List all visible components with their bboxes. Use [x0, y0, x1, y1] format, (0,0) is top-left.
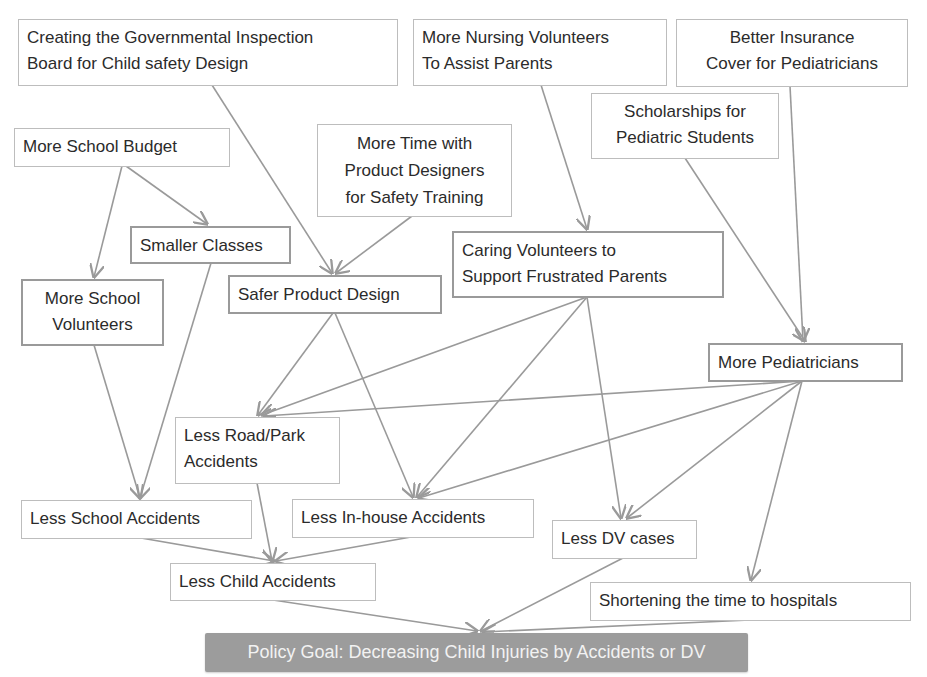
node-less-road-park-accidents: Less Road/Park Accidents — [175, 417, 340, 484]
edge-school-accidents-to-child — [141, 538, 274, 561]
edge-pediatricians-to-road-park — [264, 381, 802, 416]
node-less-inhouse-accidents: Less In-house Accidents — [292, 499, 534, 538]
edge-safer-design-to-inhouse — [335, 313, 413, 497]
node-shortening-time-to-hospitals: Shortening the time to hospitals — [590, 582, 911, 621]
node-less-school-accidents: Less School Accidents — [21, 500, 252, 539]
edge-designers-to-safer-design — [336, 216, 412, 273]
edge-budget-to-school-volunteers — [94, 166, 122, 277]
node-governmental-inspection-board: Creating the Governmental Inspection Boa… — [18, 19, 398, 86]
node-more-school-volunteers: More School Volunteers — [21, 279, 164, 346]
edge-shortening-to-goal — [483, 620, 750, 632]
node-more-pediatricians: More Pediatricians — [708, 343, 903, 382]
node-more-nursing-volunteers: More Nursing Volunteers To Assist Parent… — [413, 19, 667, 86]
edge-insurance-to-pediatricians — [790, 86, 803, 341]
node-safer-product-design: Safer Product Design — [228, 275, 442, 314]
edge-caring-to-dv — [587, 297, 621, 518]
edge-road-park-to-child — [257, 483, 272, 561]
edge-pediatricians-to-dv — [627, 381, 802, 518]
edge-safer-design-to-road-park — [258, 313, 333, 415]
edge-child-to-goal — [273, 600, 477, 631]
node-less-dv-cases: Less DV cases — [552, 520, 697, 559]
edge-caring-to-road-park — [262, 297, 587, 415]
edge-inhouse-to-child — [276, 537, 411, 561]
node-smaller-classes: Smaller Classes — [130, 226, 291, 264]
node-more-time-with-designers: More Time with Product Designers for Saf… — [317, 124, 512, 217]
edge-budget-to-smaller-classes — [126, 166, 207, 224]
node-less-child-accidents: Less Child Accidents — [170, 563, 376, 601]
node-caring-volunteers: Caring Volunteers to Support Frustrated … — [452, 231, 724, 298]
edge-pediatricians-to-inhouse — [419, 381, 802, 498]
node-scholarships: Scholarships for Pediatric Students — [591, 93, 779, 159]
edge-nursing-to-caring — [541, 85, 587, 229]
edge-pediatricians-to-shortening — [751, 381, 802, 580]
node-better-insurance: Better Insurance Cover for Pediatricians — [676, 19, 908, 87]
node-more-school-budget: More School Budget — [14, 128, 230, 167]
edge-school-volunteers-to-school-accidents — [94, 345, 140, 498]
policy-goal-banner: Policy Goal: Decreasing Child Injuries b… — [205, 633, 748, 672]
